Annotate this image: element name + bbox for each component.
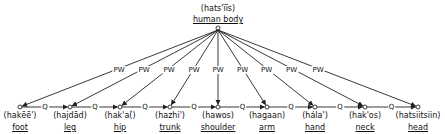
q-label-shoulder: Q <box>239 103 247 111</box>
pw-label-hip: PW <box>162 66 175 74</box>
node-phonetic-arm: (hagaan) <box>249 111 285 120</box>
node-leg <box>68 105 72 109</box>
node-phonetic-head: (hatsiitsiin) <box>396 111 441 120</box>
node-gloss-hip: hip <box>114 123 126 132</box>
pw-label-head: PW <box>311 66 324 74</box>
node-gloss-leg: leg <box>64 123 76 132</box>
node-foot <box>18 105 22 109</box>
q-label-arm: Q <box>287 103 295 111</box>
node-gloss-trunk: trunk <box>159 123 180 132</box>
node-phonetic-shoulder: (hawos) <box>202 111 234 120</box>
node-neck <box>363 105 367 109</box>
pw-label-leg: PW <box>137 66 150 74</box>
pw-label-foot: PW <box>112 66 125 74</box>
pw-label-neck: PW <box>285 66 298 74</box>
node-phonetic-hip: (hak'a(́) <box>104 111 135 120</box>
node-gloss-shoulder: shoulder <box>201 123 236 132</box>
q-label-hand: Q <box>336 103 344 111</box>
node-gloss-foot: foot <box>12 123 28 132</box>
node-phonetic-hand: (hála') <box>302 111 328 120</box>
node-shoulder <box>216 105 220 109</box>
root-gloss: human body <box>193 15 243 24</box>
node-phonetic-leg: (hajdād) <box>53 111 87 120</box>
node-gloss-head: head <box>408 123 428 132</box>
pw-label-trunk: PW <box>187 66 200 74</box>
pw-label-arm: PW <box>236 66 249 74</box>
node-trunk <box>168 105 172 109</box>
pw-label-shoulder: PW <box>211 66 224 74</box>
root-node <box>216 26 220 30</box>
root-phonetic: (hats'ïïs) <box>201 4 235 13</box>
node-arm <box>265 105 269 109</box>
node-phonetic-trunk: (hazhi') <box>155 111 185 120</box>
semantic-network-diagram: (hats'ïïs) human body (hakēē')foot(hajdā… <box>0 0 445 134</box>
q-label-neck: Q <box>388 103 396 111</box>
node-gloss-neck: neck <box>355 123 374 132</box>
node-phonetic-neck: (hak'os) <box>349 111 381 120</box>
q-label-leg: Q <box>91 103 99 111</box>
pw-label-hand: PW <box>260 66 273 74</box>
q-label-hip: Q <box>141 103 149 111</box>
node-head <box>416 105 420 109</box>
q-label-foot: Q <box>41 103 49 111</box>
node-gloss-hand: hand <box>305 123 325 132</box>
node-hip <box>118 105 122 109</box>
node-gloss-arm: arm <box>259 123 275 132</box>
node-hand <box>313 105 317 109</box>
q-label-trunk: Q <box>190 103 198 111</box>
node-phonetic-foot: (hakēē') <box>4 111 37 120</box>
